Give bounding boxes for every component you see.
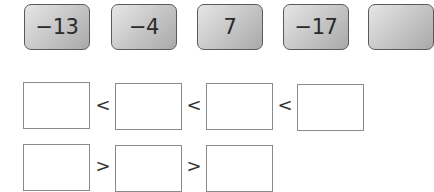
card-value: −17 bbox=[295, 15, 338, 39]
number-card-3[interactable]: 7 bbox=[197, 4, 263, 50]
less-than-sign: < bbox=[275, 94, 295, 115]
answer-box-row2-1[interactable] bbox=[23, 144, 90, 191]
card-value: −13 bbox=[36, 15, 79, 39]
number-card-1[interactable]: −13 bbox=[24, 4, 90, 50]
number-card-4[interactable]: −17 bbox=[283, 4, 349, 50]
less-than-sign: < bbox=[93, 94, 113, 115]
number-card-5[interactable] bbox=[368, 4, 434, 50]
answer-box-row1-4[interactable] bbox=[297, 84, 364, 131]
card-value: −4 bbox=[129, 15, 159, 39]
answer-box-row1-3[interactable] bbox=[206, 83, 273, 130]
greater-than-sign: > bbox=[93, 155, 113, 176]
card-value: 7 bbox=[224, 15, 237, 39]
answer-box-row1-1[interactable] bbox=[23, 82, 90, 129]
number-card-2[interactable]: −4 bbox=[111, 4, 177, 50]
greater-than-sign: > bbox=[184, 155, 204, 176]
answer-box-row2-3[interactable] bbox=[206, 145, 273, 192]
less-than-sign: < bbox=[184, 94, 204, 115]
answer-box-row1-2[interactable] bbox=[115, 83, 182, 130]
answer-box-row2-2[interactable] bbox=[115, 145, 182, 192]
